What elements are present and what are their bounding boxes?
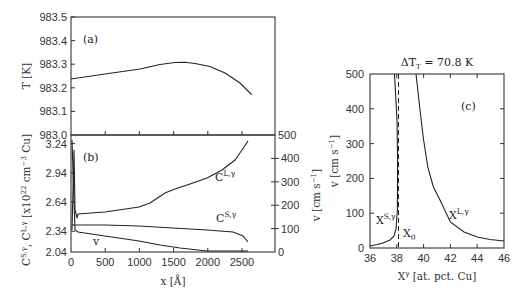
c-xtick: 40	[417, 252, 429, 264]
c-ytick: 500	[346, 68, 364, 80]
panel-c-label: (c)	[461, 100, 476, 113]
panel-a-frame	[71, 17, 275, 135]
b-ylabel-right: v [cm s−1]	[310, 169, 322, 222]
t-curve	[71, 62, 252, 94]
c-xtick: 44	[471, 252, 483, 264]
b-yrtick: 300	[281, 176, 299, 188]
b-xlabel: x [Å]	[160, 274, 185, 287]
b-xtick: 0	[68, 256, 74, 268]
b-ytick: 3.24	[46, 138, 67, 150]
figure: 983.5 983.4 983.3 983.2 983.1 983.0 T [K…	[0, 0, 526, 298]
c-xtick: 36	[364, 252, 376, 264]
c-xtick: 38	[391, 252, 403, 264]
b-yrtick: 0	[278, 246, 284, 258]
c-ytick: 100	[346, 207, 364, 219]
v-label: v	[92, 235, 100, 248]
a-ytick: 983.5	[39, 11, 67, 23]
b-xtick: 2500	[230, 256, 254, 268]
c-ylabel: v [cm s−1]	[328, 135, 340, 188]
x0-label: X0	[403, 227, 416, 242]
cl-gamma-label: CL,γ	[215, 169, 236, 184]
panel-b-frame	[71, 135, 275, 252]
b-yrtick: 500	[278, 129, 296, 141]
c-xtick: 42	[444, 252, 456, 264]
b-xtick: 2000	[196, 256, 220, 268]
c-xtick: 46	[498, 252, 510, 264]
panel-a-label: (a)	[83, 33, 98, 46]
b-ytick: 2.34	[46, 225, 67, 237]
c-xlabel: Xγ [at. pct. Cu]	[398, 270, 477, 282]
b-yrtick: 200	[281, 199, 299, 211]
cs-gamma-label: CS,γ	[216, 210, 237, 225]
b-ylabel: CS,γ, CL,γ [x1022 cm−3 Cu]	[20, 134, 32, 266]
b-xtick: 1500	[161, 256, 185, 268]
b-ytick: 2.04	[46, 246, 67, 258]
xl-gamma-label: XL,γ	[449, 207, 469, 222]
b-yrtick: 400	[281, 152, 299, 164]
panel-b-label: (b)	[83, 151, 99, 164]
a-ytick: 983.2	[39, 82, 67, 94]
b-ytick: 2.64	[46, 196, 67, 208]
panel-b: 3.24 2.94 2.64 2.34 2.04 500 400 300 200…	[20, 129, 322, 287]
c-ytick: 200	[346, 172, 364, 184]
b-ytick: 2.94	[46, 167, 67, 179]
a-ytick: 983.3	[39, 58, 67, 70]
b-xtick: 500	[96, 256, 114, 268]
b-yrtick: 100	[281, 223, 299, 235]
a-ytick: 983.1	[39, 105, 67, 117]
a-ylabel: T [K]	[20, 63, 32, 89]
b-xtick: 1000	[127, 256, 151, 268]
a-ytick: 983.4	[39, 35, 67, 47]
panel-a: 983.5 983.4 983.3 983.2 983.1 983.0 T [K…	[20, 11, 275, 141]
xs-gamma-label: XS,γ	[376, 212, 396, 227]
c-ytick: 400	[346, 103, 364, 115]
panel-c: 500 400 300 200 100 0 36 38 40 42 44 46 …	[328, 56, 510, 282]
c-title: ΔTT = 70.8 K	[401, 56, 474, 71]
c-ytick: 300	[346, 138, 364, 150]
panel-c-frame	[370, 74, 504, 248]
